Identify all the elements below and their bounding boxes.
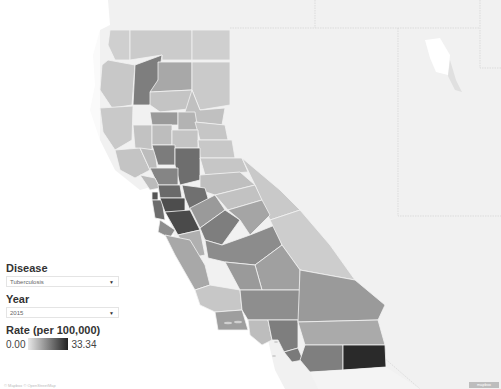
legend-title: Rate (per 100,000) [6, 324, 125, 336]
mapbox-logo: mapbox [469, 382, 499, 388]
county-glenn [150, 112, 178, 125]
filter-panel: Disease Tuberculosis ▼ Year 2015 ▼ Rate … [0, 262, 125, 350]
county-nevada-placer [198, 140, 235, 158]
legend-min: 0.00 [6, 339, 25, 350]
county-yuba-sutter [172, 130, 198, 148]
chevron-down-icon: ▼ [109, 277, 114, 288]
year-dropdown-value: 2015 [10, 310, 23, 316]
county-butte [178, 112, 198, 130]
year-filter-label: Year [6, 293, 125, 305]
legend-color-ramp [28, 338, 68, 350]
county-san-diego [300, 345, 343, 372]
disease-dropdown[interactable]: Tuberculosis ▼ [6, 276, 119, 287]
county-contra-costa [158, 185, 182, 198]
color-legend: 0.00 33.34 [6, 338, 125, 350]
county-sierra [195, 122, 228, 140]
county-colusa [152, 125, 172, 145]
map-attribution[interactable]: © Mapbox © OpenStreetMap [4, 383, 56, 388]
year-dropdown[interactable]: 2015 ▼ [6, 307, 119, 318]
county-kern [240, 290, 300, 320]
county-lassen [192, 62, 230, 110]
legend-max: 33.34 [71, 339, 96, 350]
county-riverside [298, 320, 385, 345]
county-modoc [192, 30, 230, 60]
county-sacramento [175, 148, 200, 185]
chevron-down-icon: ▼ [109, 308, 114, 319]
disease-dropdown-value: Tuberculosis [10, 279, 44, 285]
county-lake [133, 125, 152, 150]
disease-filter-label: Disease [6, 262, 125, 274]
county-san-francisco [152, 192, 158, 200]
county-santa-barbara [215, 310, 248, 330]
county-imperial [343, 345, 386, 370]
